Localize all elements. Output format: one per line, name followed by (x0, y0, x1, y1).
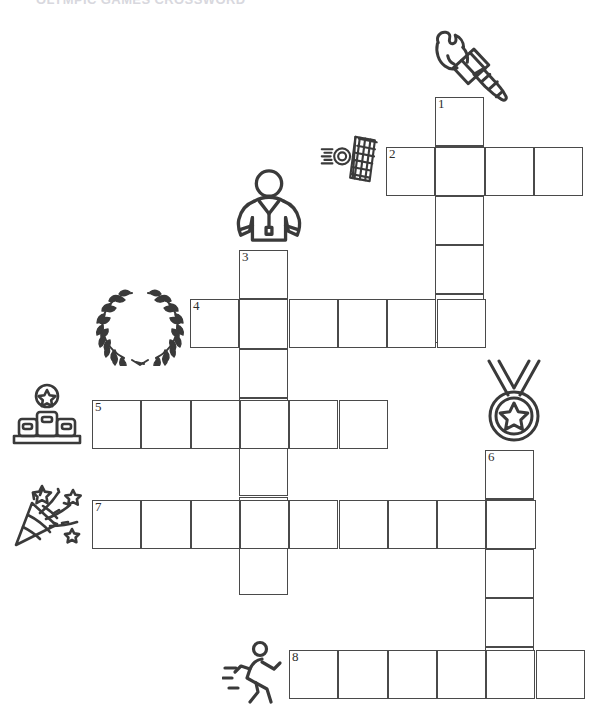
crossword-cell-letter (486, 599, 533, 646)
crossword-cell[interactable] (437, 650, 486, 699)
crossword-clue-number: 3 (242, 250, 249, 263)
crossword-cell-letter (438, 651, 485, 698)
crossword-cell[interactable] (437, 500, 486, 549)
crossword-cell-letter (486, 148, 533, 195)
crossword-cell-letter (436, 246, 483, 293)
crossword-cell-letter (339, 651, 386, 698)
crossword-cell-letter (340, 401, 387, 448)
crossword-cell-letter (290, 401, 337, 448)
crossword-cell-letter (487, 501, 534, 548)
podium-icon (10, 383, 84, 447)
crossword-cell[interactable] (240, 500, 289, 549)
crossword-cell-letter (436, 197, 483, 244)
crossword-cell-letter (438, 501, 485, 548)
crossword-cell-letter (241, 401, 288, 448)
crossword-cell[interactable] (388, 650, 437, 699)
crossword-cell[interactable] (338, 299, 387, 348)
crossword-cell[interactable] (485, 147, 534, 196)
crossword-cell[interactable] (435, 196, 484, 245)
crossword-clue-number: 5 (95, 400, 102, 413)
crossword-cell[interactable] (289, 500, 338, 549)
crossword-cell-letter (142, 501, 189, 548)
crossword-cell-letter (241, 501, 288, 548)
crossword-clue-number: 7 (95, 500, 102, 513)
crossword-cell-letter (339, 300, 386, 347)
crossword-cell[interactable] (486, 650, 535, 699)
crossword-cell[interactable]: 8 (289, 650, 338, 699)
crossword-cell-letter (340, 501, 387, 548)
medal-icon (477, 358, 551, 444)
crossword-page: OLYMPIC GAMES CROSSWORD 12345678 (0, 0, 607, 728)
crossword-cell-letter (240, 300, 287, 347)
crossword-cell[interactable] (437, 299, 486, 348)
crossword-cell-letter (192, 401, 239, 448)
crossword-cell-letter (142, 401, 189, 448)
crossword-cell[interactable] (141, 400, 190, 449)
crossword-cell[interactable] (239, 447, 288, 496)
crossword-cell[interactable] (485, 549, 534, 598)
crossword-cell[interactable] (240, 400, 289, 449)
crossword-cell-letter (240, 350, 287, 397)
crossword-cell-letter (240, 448, 287, 495)
laurel-wreath-icon (94, 288, 186, 366)
crossword-cell[interactable]: 7 (92, 500, 141, 549)
crossword-cell-letter (535, 148, 582, 195)
runner-icon (222, 640, 284, 704)
crossword-cell-letter (388, 300, 435, 347)
crossword-cell[interactable] (387, 299, 436, 348)
crossword-cell[interactable] (289, 400, 338, 449)
crossword-cell[interactable] (485, 598, 534, 647)
crossword-cell[interactable]: 6 (485, 450, 534, 499)
crossword-cell-letter (436, 148, 483, 195)
party-popper-icon (10, 479, 88, 551)
crossword-cell-letter (537, 651, 584, 698)
crossword-cell[interactable]: 5 (92, 400, 141, 449)
crossword-cell-letter (487, 651, 534, 698)
crossword-cell-letter (486, 550, 533, 597)
crossword-cell[interactable] (191, 500, 240, 549)
crossword-cell[interactable] (141, 500, 190, 549)
page-title: OLYMPIC GAMES CROSSWORD (36, 0, 456, 4)
crossword-cell[interactable] (191, 400, 240, 449)
crossword-cell-letter (389, 651, 436, 698)
crossword-cell[interactable] (388, 500, 437, 549)
torch-icon (424, 22, 520, 108)
crossword-clue-number: 6 (488, 450, 495, 463)
crossword-cell-letter (290, 300, 337, 347)
athlete-icon (233, 168, 305, 244)
crossword-cell[interactable] (239, 349, 288, 398)
crossword-cell[interactable] (534, 147, 583, 196)
crossword-cell[interactable] (338, 650, 387, 699)
crossword-cell[interactable] (289, 299, 338, 348)
crossword-clue-number: 8 (292, 650, 299, 663)
crossword-cell-letter (389, 501, 436, 548)
crossword-cell[interactable]: 4 (190, 299, 239, 348)
crossword-cell[interactable] (239, 299, 288, 348)
crossword-cell[interactable] (239, 546, 288, 595)
crossword-cell-letter (438, 300, 485, 347)
crossword-cell[interactable] (339, 500, 388, 549)
crossword-cell[interactable] (435, 147, 484, 196)
crossword-cell[interactable] (536, 650, 585, 699)
crossword-cell[interactable]: 2 (386, 147, 435, 196)
crossword-clue-number: 2 (389, 147, 396, 160)
crossword-cell-letter (290, 501, 337, 548)
target-icon (320, 133, 382, 185)
crossword-clue-number: 4 (193, 299, 200, 312)
crossword-cell[interactable] (435, 245, 484, 294)
crossword-cell[interactable]: 3 (239, 250, 288, 299)
crossword-cell[interactable] (339, 400, 388, 449)
crossword-cell[interactable] (486, 500, 535, 549)
crossword-cell-letter (240, 547, 287, 594)
crossword-cell-letter (192, 501, 239, 548)
